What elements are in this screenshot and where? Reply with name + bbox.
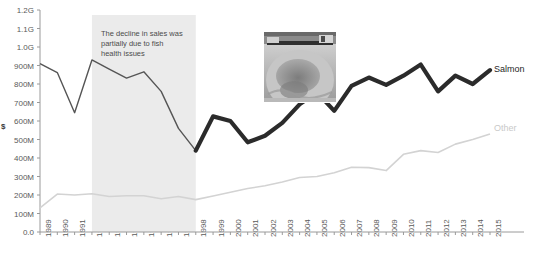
sales-line-chart: $ 1.2G1.1G1.0G900M800M700M600M500M400M30…: [0, 0, 534, 273]
series-line-salmon-late: [196, 65, 490, 151]
annotation-decline-note: The decline in sales was partially due t…: [101, 29, 209, 59]
fish-pen-photo: [263, 31, 337, 103]
series-label-salmon: Salmon: [494, 64, 525, 74]
series-label-other: Other: [494, 123, 517, 133]
